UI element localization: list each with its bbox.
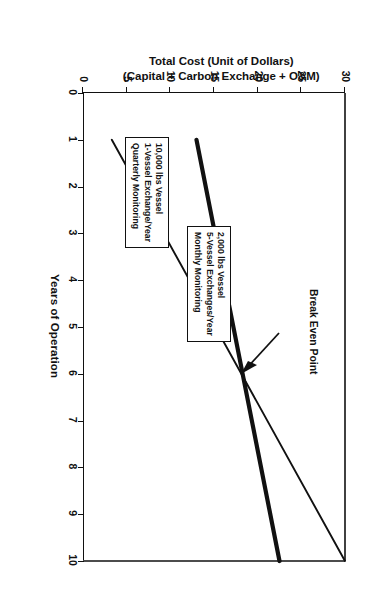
x-tick-label-3: 3 — [67, 219, 79, 245]
callout-10000-lbs: 10,000 lbs Vessel 1-Vessel Exchange/Year… — [125, 137, 169, 248]
callout-10000-lbs-line2: 1-Vessel Exchange/Year — [141, 143, 152, 242]
y-tick-label-5: 5 — [122, 52, 134, 82]
x-tick-label-9: 9 — [67, 500, 79, 526]
y-axis-title-line2: (Capital + Carbon Exchange + O&M) — [123, 70, 320, 82]
callout-2000-lbs-line3: Monthly Monitoring — [192, 232, 203, 336]
x-tick-label-1: 1 — [67, 126, 79, 152]
x-tick-label-5: 5 — [67, 313, 79, 339]
y-tick-label-10: 10 — [165, 52, 177, 82]
x-axis-title: Years of Operation — [49, 92, 61, 560]
chart-page: Total Cost (Unit of Dollars) (Capital + … — [0, 0, 367, 605]
y-tick-label-15: 15 — [209, 52, 221, 82]
line-chart: Total Cost (Unit of Dollars) (Capital + … — [0, 0, 367, 605]
y-tick-label-25: 25 — [296, 52, 308, 82]
x-tick-label-7: 7 — [67, 407, 79, 433]
callout-10000-lbs-line3: Quarterly Monitoring — [130, 143, 141, 242]
x-tick-label-4: 4 — [67, 266, 79, 292]
callout-2000-lbs: 2,000 lbs Vessel 5-Vessel Exchanges/Year… — [187, 226, 231, 342]
callout-2000-lbs-line1: 2,000 lbs Vessel — [215, 232, 226, 336]
series-line-2000lbs — [197, 140, 280, 561]
callout-10000-lbs-line1: 10,000 lbs Vessel — [153, 143, 164, 242]
y-tick-label-30: 30 — [340, 52, 352, 82]
plot-area: Break Even Point 10,000 lbs Vessel 1-Ves… — [83, 92, 345, 560]
y-tick-label-0: 0 — [78, 52, 90, 82]
break-even-point-label: Break Even Point — [308, 289, 319, 374]
x-tick-label-0: 0 — [67, 79, 79, 105]
x-tick-label-2: 2 — [67, 173, 79, 199]
callout-2000-lbs-line2: 5-Vessel Exchanges/Year — [203, 232, 214, 336]
break-even-arrow — [241, 333, 279, 374]
x-tick-label-10: 10 — [67, 547, 79, 573]
x-tick-label-6: 6 — [67, 360, 79, 386]
x-tick-label-8: 8 — [67, 453, 79, 479]
rotated-chart-container: Total Cost (Unit of Dollars) (Capital + … — [0, 0, 367, 605]
y-tick-label-20: 20 — [253, 52, 265, 82]
